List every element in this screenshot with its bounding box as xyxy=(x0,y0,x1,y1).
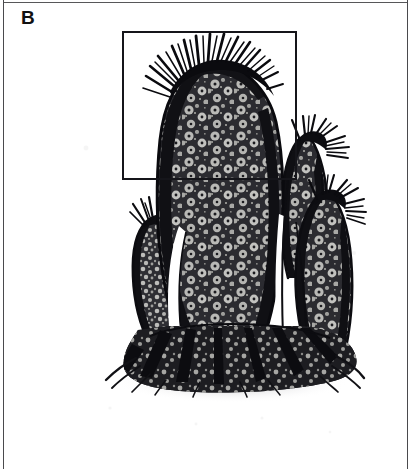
tube-sponge-cluster-illustration xyxy=(0,0,414,469)
figure-panel-b: B xyxy=(0,0,414,469)
